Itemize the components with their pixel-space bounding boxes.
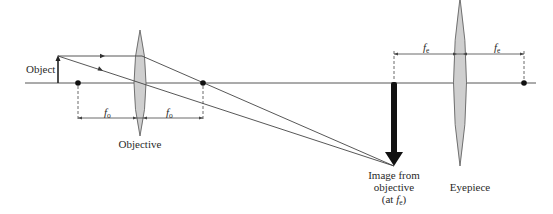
fo-label-left: fo — [104, 106, 111, 120]
dim-arrowhead — [520, 53, 524, 56]
image-label-line3: (at fe) — [382, 193, 407, 207]
eyepiece-label: Eyepiece — [450, 181, 490, 193]
focal-point-objective-right — [200, 80, 206, 86]
ray-arrow-marker — [100, 54, 105, 58]
objective-label: Objective — [119, 138, 162, 150]
eyepiece-lens — [454, 0, 467, 166]
image-label-suffix: ) — [403, 193, 407, 206]
ray-arrow-marker — [98, 66, 103, 71]
fe-label-right: fe — [494, 41, 501, 55]
fo-label-right: fo — [166, 106, 173, 120]
focal-point-eyepiece-right — [521, 80, 527, 86]
fe-label-left: fe — [423, 41, 430, 55]
microscope-diagram: Object Objective Eyepiece Image from obj… — [0, 0, 553, 214]
focal-subscript: o — [169, 111, 173, 120]
dim-arrowhead — [78, 117, 82, 120]
image-label-line1: Image from — [368, 169, 420, 181]
image-arrow-shaft — [391, 82, 397, 154]
focal-subscript: o — [107, 111, 111, 120]
object-label: Object — [26, 63, 55, 75]
focal-point-objective-left — [75, 80, 81, 86]
dim-arrowhead — [199, 117, 203, 120]
image-label-line2: objective — [374, 181, 414, 193]
dim-arrowhead — [394, 53, 398, 56]
ray-parallel-out — [142, 56, 394, 166]
image-label-prefix: (at — [382, 193, 396, 206]
